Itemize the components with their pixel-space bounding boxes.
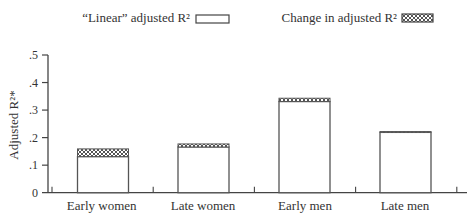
bar-group: [78, 149, 129, 193]
bar-linear: [78, 157, 129, 193]
bar-group: [279, 98, 330, 192]
legend-linear-label: “Linear” adjusted R²: [82, 10, 190, 25]
bar-change: [178, 144, 229, 147]
bar-change: [279, 98, 330, 101]
category-label: Late men: [381, 198, 430, 213]
y-tick-label: .5: [29, 48, 38, 62]
bar-linear: [380, 132, 431, 192]
legend-change-label: Change in adjusted R²: [282, 10, 398, 25]
bar-linear: [178, 147, 229, 193]
legend-linear-swatch: [196, 15, 229, 23]
y-tick-label: .4: [29, 76, 38, 90]
bar-group: [380, 132, 431, 193]
bar-group: [178, 144, 229, 193]
bar-linear: [279, 102, 330, 193]
y-tick-label: .3: [29, 103, 38, 117]
category-label: Early women: [67, 198, 137, 213]
y-axis-label: Adjusted R²*: [6, 90, 21, 159]
category-label: Early men: [278, 198, 332, 213]
y-tick-label: .2: [29, 131, 38, 145]
legend-change-swatch: [402, 14, 433, 22]
category-label: Late women: [171, 198, 236, 213]
bar-change: [380, 132, 431, 133]
bar-change: [78, 149, 129, 157]
y-tick-label: 0: [32, 186, 38, 200]
bar-chart: “Linear” adjusted R² Change in adjusted …: [0, 0, 471, 221]
legend: “Linear” adjusted R² Change in adjusted …: [82, 10, 433, 25]
bars: [78, 98, 432, 192]
y-tick-label: .1: [29, 158, 38, 172]
category-labels: Early womenLate womenEarly menLate men: [67, 198, 430, 213]
